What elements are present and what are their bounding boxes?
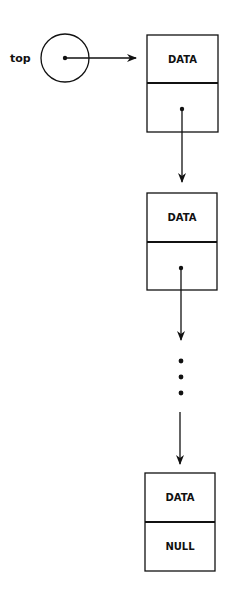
null-label: NULL <box>165 541 195 552</box>
node-data-label: DATA <box>165 492 194 503</box>
top-pointer: top <box>10 34 136 82</box>
linked-list-diagram: top DATA DATA DATA NULL <box>0 0 227 591</box>
list-node-1: DATA <box>147 35 218 182</box>
ellipsis-dots <box>179 359 184 396</box>
node-data-label: DATA <box>168 54 197 65</box>
list-node-2: DATA <box>147 193 217 340</box>
node-data-label: DATA <box>167 212 196 223</box>
top-label: top <box>10 52 31 65</box>
list-node-tail: DATA NULL <box>145 473 215 571</box>
